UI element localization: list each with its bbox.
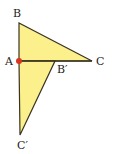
label-a: A: [4, 55, 14, 68]
geometry-diagram: B A C B′ C′: [0, 0, 119, 154]
label-c: C: [96, 55, 104, 68]
triangle-ab-prime-c-prime: [19, 61, 55, 135]
point-a-marker: [16, 58, 22, 64]
label-c-prime: C′: [17, 139, 28, 152]
triangle-abc: [19, 23, 92, 61]
label-b: B: [13, 7, 21, 20]
label-b-prime: B′: [57, 63, 68, 76]
